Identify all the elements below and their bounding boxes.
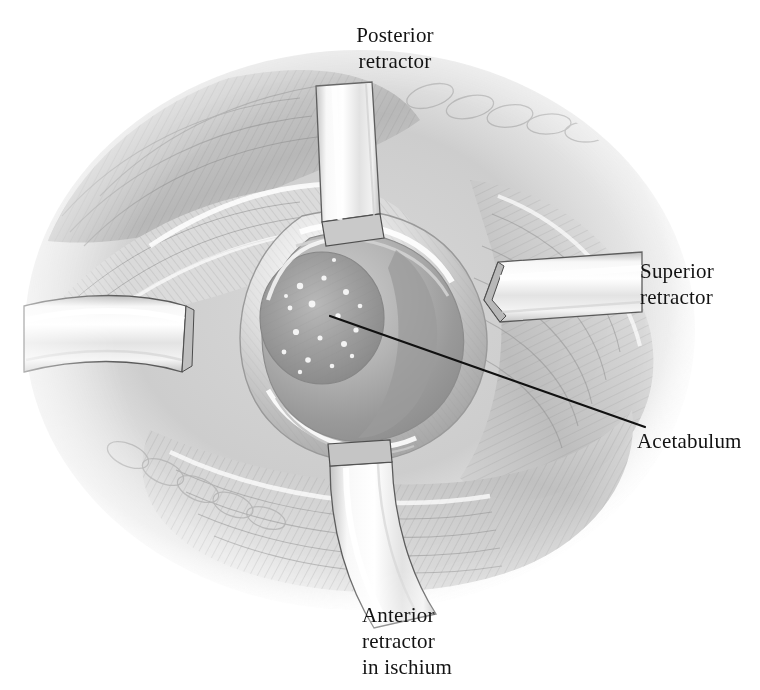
label-anterior-retractor: Anterior retractor in ischium xyxy=(362,602,522,680)
lateral-retractor xyxy=(24,296,194,373)
label-posterior-retractor: Posterior retractor xyxy=(330,22,460,74)
label-acetabulum: Acetabulum xyxy=(637,428,760,454)
illustration-canvas xyxy=(0,0,760,690)
figure-caption xyxy=(8,678,748,689)
label-superior-retractor: Superior retractor xyxy=(640,258,760,310)
posterior-retractor xyxy=(316,82,384,246)
superior-retractor xyxy=(484,252,642,322)
surgical-illustration-figure: Posterior retractor Superior retractor A… xyxy=(0,0,760,690)
